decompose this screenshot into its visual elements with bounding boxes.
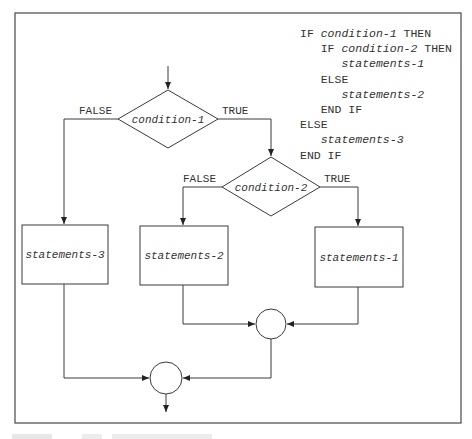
code-line: END IF [300, 102, 452, 117]
code-line: statements-3 [300, 132, 452, 147]
code-keyword: END IF [300, 149, 341, 162]
process-3-label: statements-3 [25, 249, 105, 261]
d1-false-connector [64, 119, 118, 224]
code-line: statements-1 [300, 56, 452, 71]
pseudocode-block: IF condition-1 THEN IF condition-2 THEN … [300, 26, 452, 163]
code-placeholder: condition-2 [341, 42, 417, 55]
p1-to-join1-connector [287, 287, 358, 324]
process-1-label: statements-1 [319, 252, 398, 264]
code-line: ELSE [300, 72, 452, 87]
d1-true-connector [218, 119, 271, 156]
process-2-label: statements-2 [144, 250, 224, 262]
join1-to-join2-connector [183, 339, 271, 378]
code-keyword: THEN [417, 42, 452, 55]
decision-1-false-label: FALSE [79, 105, 112, 117]
figure-caption-cropped [12, 434, 212, 439]
p2-to-join1-connector [183, 285, 255, 324]
d2-true-connector [320, 187, 358, 226]
code-line: END IF [300, 148, 452, 163]
code-line: ELSE [300, 117, 452, 132]
decision-2-true-label: TRUE [324, 173, 351, 185]
join-circle-2 [150, 362, 182, 394]
code-keyword: ELSE [300, 118, 328, 131]
decision-1-true-label: TRUE [222, 105, 249, 117]
join-circle-1 [256, 309, 286, 339]
code-keyword: ELSE [321, 73, 349, 86]
code-placeholder: statements-1 [341, 57, 424, 70]
code-keyword: END IF [321, 103, 362, 116]
decision-1-label: condition-1 [132, 114, 205, 126]
code-placeholder: condition-1 [321, 27, 397, 40]
d2-false-connector [183, 187, 222, 225]
code-placeholder: statements-3 [321, 133, 404, 146]
code-line: IF condition-1 THEN [300, 26, 452, 41]
code-line: statements-2 [300, 87, 452, 102]
p3-to-join2-connector [64, 284, 149, 378]
code-keyword: THEN [397, 27, 432, 40]
decision-2-false-label: FALSE [183, 173, 216, 185]
decision-2-label: condition-2 [235, 182, 308, 194]
code-placeholder: statements-2 [341, 88, 424, 101]
code-keyword: IF [300, 27, 321, 40]
code-keyword: IF [321, 42, 342, 55]
code-line: IF condition-2 THEN [300, 41, 452, 56]
